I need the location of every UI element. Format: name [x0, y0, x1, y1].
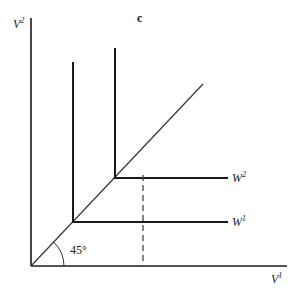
w2-label: W2: [232, 170, 246, 185]
diagram-canvas: c V2 V1 W2 W1 45°: [0, 0, 301, 295]
angle-arc: [54, 242, 65, 266]
diagram-title-label: c: [137, 11, 143, 25]
x-axis-label: V1: [271, 271, 282, 286]
diagonal-45-line: [31, 84, 203, 266]
w1-curve: [73, 62, 228, 222]
angle-label: 45°: [70, 243, 87, 257]
w1-label: W1: [232, 214, 246, 229]
y-axis-label: V2: [13, 16, 24, 31]
